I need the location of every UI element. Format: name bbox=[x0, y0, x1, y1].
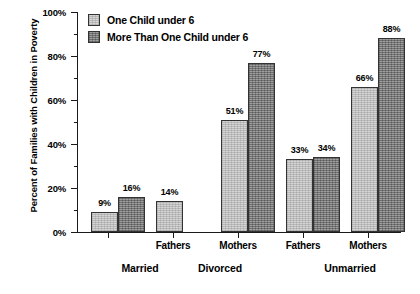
bar-unmarried-mothers-one-child[interactable] bbox=[351, 87, 378, 232]
bar-value-divorced-mothers-one-child: 51% bbox=[214, 106, 255, 116]
bar-divorced-mothers-more-than-one[interactable] bbox=[248, 63, 275, 232]
legend-item-more-than-one-child[interactable]: More Than One Child under 6 bbox=[88, 28, 248, 45]
bar-value-married-one-child: 9% bbox=[84, 198, 125, 208]
y-tick-label-100: 100% bbox=[26, 7, 66, 18]
x-axis-line bbox=[77, 232, 401, 233]
legend-item-one-child[interactable]: One Child under 6 bbox=[88, 11, 248, 28]
bar-divorced-fathers-one-child[interactable] bbox=[156, 201, 183, 232]
y-tick-label-20: 20% bbox=[26, 183, 66, 194]
plot-area: 9% 16% 14% 51% 77% 33% 34% 66% 88% bbox=[78, 12, 401, 232]
bar-unmarried-mothers-more-than-one[interactable] bbox=[378, 38, 405, 232]
bar-value-unmarried-mothers-more-than-one: 88% bbox=[371, 24, 412, 34]
legend-swatch-more-than-one-child-icon bbox=[88, 31, 100, 43]
x-sub-label-unmarried-mothers: Mothers bbox=[328, 240, 408, 251]
bar-married-one-child[interactable] bbox=[91, 212, 118, 232]
bar-divorced-mothers-one-child[interactable] bbox=[221, 120, 248, 232]
legend-swatch-one-child-icon bbox=[88, 14, 100, 26]
legend: One Child under 6 More Than One Child un… bbox=[88, 11, 248, 45]
bar-chart: Percent of Families with Children in Pov… bbox=[0, 0, 420, 294]
x-tick-divorced-mothers bbox=[238, 233, 239, 238]
x-tick-unmarried-fathers bbox=[303, 233, 304, 238]
y-tick-label-80: 80% bbox=[26, 51, 66, 62]
bar-unmarried-fathers-one-child[interactable] bbox=[286, 159, 313, 232]
y-tick-label-0: 0% bbox=[26, 227, 66, 238]
y-tick-label-40: 40% bbox=[26, 139, 66, 150]
bar-value-unmarried-fathers-more-than-one: 34% bbox=[306, 143, 347, 153]
x-tick-married bbox=[108, 233, 109, 238]
x-tick-divorced-fathers bbox=[173, 233, 174, 238]
bar-unmarried-fathers-more-than-one[interactable] bbox=[313, 157, 340, 232]
legend-label-more-than-one-child: More Than One Child under 6 bbox=[107, 31, 248, 43]
legend-label-one-child: One Child under 6 bbox=[107, 14, 194, 26]
bar-value-unmarried-mothers-one-child: 66% bbox=[344, 73, 385, 83]
bar-value-married-more-than-one: 16% bbox=[111, 183, 152, 193]
x-tick-unmarried-mothers bbox=[368, 233, 369, 238]
bar-value-divorced-fathers-one-child: 14% bbox=[149, 187, 190, 197]
x-group-label-divorced: Divorced bbox=[165, 262, 275, 274]
bar-value-divorced-mothers-more-than-one: 77% bbox=[241, 49, 282, 59]
y-tick-label-60: 60% bbox=[26, 95, 66, 106]
x-group-label-unmarried: Unmarried bbox=[295, 262, 405, 274]
